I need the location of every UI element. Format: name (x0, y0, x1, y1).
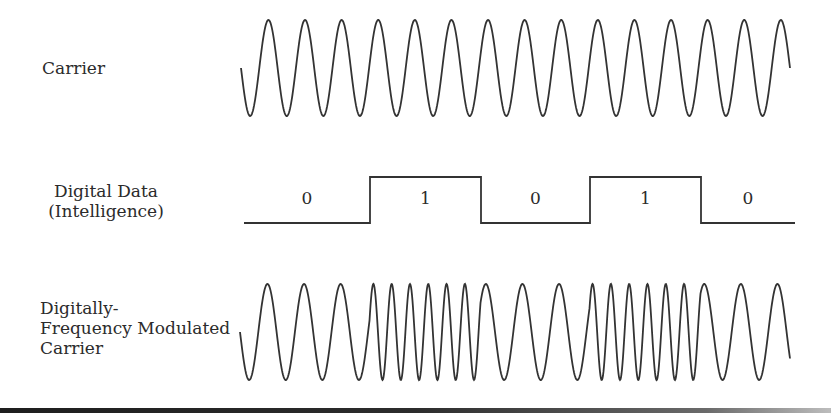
bottom-border (0, 408, 831, 413)
bit-label: 0 (743, 188, 754, 208)
carrier-sine-wave (241, 20, 790, 116)
digital-data-square-wave (244, 177, 795, 223)
bit-label: 1 (420, 188, 431, 208)
waveform-canvas (0, 0, 831, 413)
fm-carrier-wave (240, 284, 790, 380)
bit-label: 0 (530, 188, 541, 208)
bit-label: 1 (640, 188, 651, 208)
bit-label: 0 (302, 188, 313, 208)
